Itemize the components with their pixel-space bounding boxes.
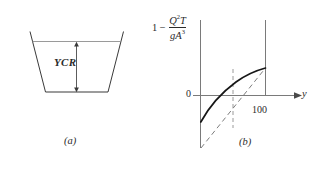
depth-arrow-head-up [74, 42, 79, 47]
panel-a-caption: (a) [64, 135, 76, 146]
numerator-Q: Q [169, 15, 177, 26]
x-axis-name-label: y [302, 88, 307, 99]
panel-b-plot [193, 20, 302, 148]
denominator-gA: gA [170, 30, 182, 41]
numerator-T: T [180, 15, 186, 26]
origin-tick-label: 0 [186, 88, 191, 99]
y-axis-expression: 1 − Q2T gA3 [152, 14, 187, 41]
channel-right-bank [108, 32, 124, 93]
expression-denominator: gA3 [169, 27, 186, 41]
panel-a-trapezoid-channel [30, 32, 124, 93]
x-axis-arrowhead [294, 92, 302, 98]
panel-b-caption: (b) [239, 136, 251, 147]
x-tick-label-100: 100 [252, 104, 267, 115]
channel-left-bank [30, 32, 46, 93]
denominator-exponent: 3 [182, 28, 185, 35]
expression-numerator: Q2T [168, 14, 187, 27]
expression-lead: 1 [152, 22, 157, 33]
ycr-depth-label: YCR [54, 56, 77, 68]
expression-minus-sign: − [160, 22, 166, 33]
expression-fraction: Q2T gA3 [168, 14, 187, 41]
